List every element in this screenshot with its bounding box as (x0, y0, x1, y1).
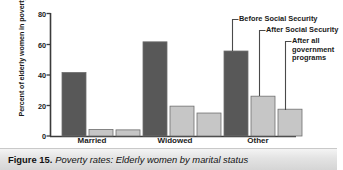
leader-line-after-ss (260, 31, 266, 97)
figure-caption-bar: Figure 15. Poverty rates: Elderly women … (0, 148, 337, 170)
bar-widowed-series-2 (170, 106, 194, 136)
x-category-label-married: Married (64, 136, 120, 145)
bar-other-series-1 (224, 51, 248, 136)
annotation-after-all-government-programs: After all government programs (292, 37, 343, 63)
x-category-label-other: Other (232, 136, 284, 145)
bar-widowed-series-1 (143, 42, 167, 136)
bar-widowed-series-3 (197, 113, 221, 136)
bar-other-series-2 (251, 96, 275, 136)
chart-plot-area: Percent of elderly women in poverty 80 6… (0, 0, 337, 148)
figure-caption-text: Poverty rates: Elderly women by marital … (55, 154, 248, 165)
figure-caption-number: Figure 15. (8, 154, 52, 165)
bars-layer (62, 42, 302, 136)
annotation-before-social-security: Before Social Security (239, 15, 317, 24)
bar-other-series-3 (278, 109, 302, 136)
x-category-label-widowed: Widowed (144, 136, 206, 145)
leader-line-before (233, 20, 239, 52)
annotation-after-social-security: After Social Security (266, 26, 338, 35)
bar-married-series-2 (89, 129, 113, 136)
bar-married-series-1 (62, 72, 86, 136)
leader-line-after-all (286, 42, 292, 111)
